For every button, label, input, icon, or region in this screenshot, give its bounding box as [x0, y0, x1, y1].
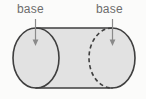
left-base-label: base — [17, 3, 44, 16]
right-base-label: base — [96, 3, 123, 16]
cylinder-diagram: base base — [0, 0, 146, 99]
